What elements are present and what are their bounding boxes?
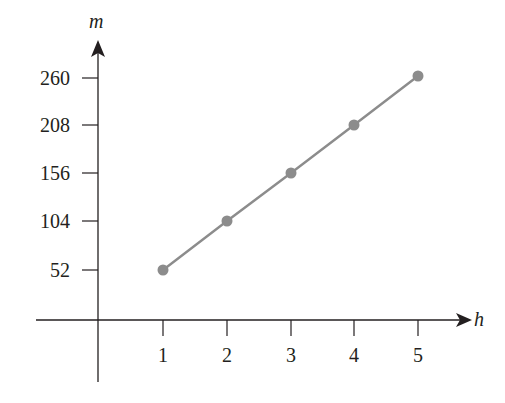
y-tick-label: 156 [40, 162, 70, 184]
y-tick-label: 260 [40, 67, 70, 89]
data-point [158, 265, 169, 276]
x-tick-label: 3 [286, 344, 296, 366]
chart: h m 260 208 156 104 52 1 2 3 4 5 [0, 0, 505, 403]
y-tick-label: 104 [40, 210, 70, 232]
data-point [413, 71, 424, 82]
x-axis-label: h [474, 308, 484, 330]
y-tick-label: 52 [50, 259, 70, 281]
x-tick-label: 1 [158, 344, 168, 366]
data-point [222, 216, 233, 227]
x-tick-label: 2 [222, 344, 232, 366]
y-ticks [82, 78, 98, 270]
x-tick-label: 5 [413, 344, 423, 366]
data-point [286, 168, 297, 179]
y-axis-label: m [89, 10, 103, 32]
data-point [349, 120, 360, 131]
x-ticks [163, 320, 418, 336]
y-tick-label: 208 [40, 114, 70, 136]
x-tick-label: 4 [349, 344, 359, 366]
